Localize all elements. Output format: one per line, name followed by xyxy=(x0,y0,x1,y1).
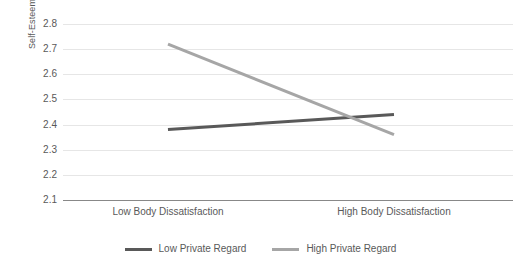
legend-label: High Private Regard xyxy=(306,243,396,255)
y-axis-tick-label: 2.2 xyxy=(17,170,57,180)
legend-item[interactable]: High Private Regard xyxy=(272,243,396,255)
legend-swatch-icon xyxy=(125,248,152,251)
y-axis-tick-label: 2.3 xyxy=(17,145,57,155)
x-axis-line xyxy=(63,200,513,201)
chart-legend: Low Private RegardHigh Private Regard xyxy=(0,240,521,258)
y-axis-tick-label: 2.1 xyxy=(17,195,57,205)
legend-label: Low Private Regard xyxy=(159,243,247,255)
x-axis-category-label: Low Body Dissatisfaction xyxy=(112,206,223,217)
legend-swatch-icon xyxy=(272,248,299,251)
y-axis-tick-label: 2.4 xyxy=(17,120,57,130)
y-axis-tick-label: 2.6 xyxy=(17,69,57,79)
x-axis-labels: Low Body DissatisfactionHigh Body Dissat… xyxy=(63,206,513,222)
line-chart: Self-Esteem 2.82.72.62.52.42.32.22.1 Low… xyxy=(0,0,521,267)
y-axis-tick-label: 2.7 xyxy=(17,44,57,54)
y-axis-tick-label: 2.8 xyxy=(17,19,57,29)
x-axis-category-label: High Body Dissatisfaction xyxy=(337,206,450,217)
y-axis-tick-label: 2.5 xyxy=(17,94,57,104)
legend-item[interactable]: Low Private Regard xyxy=(125,243,247,255)
series-lines xyxy=(63,24,513,200)
plot-area xyxy=(63,24,513,200)
